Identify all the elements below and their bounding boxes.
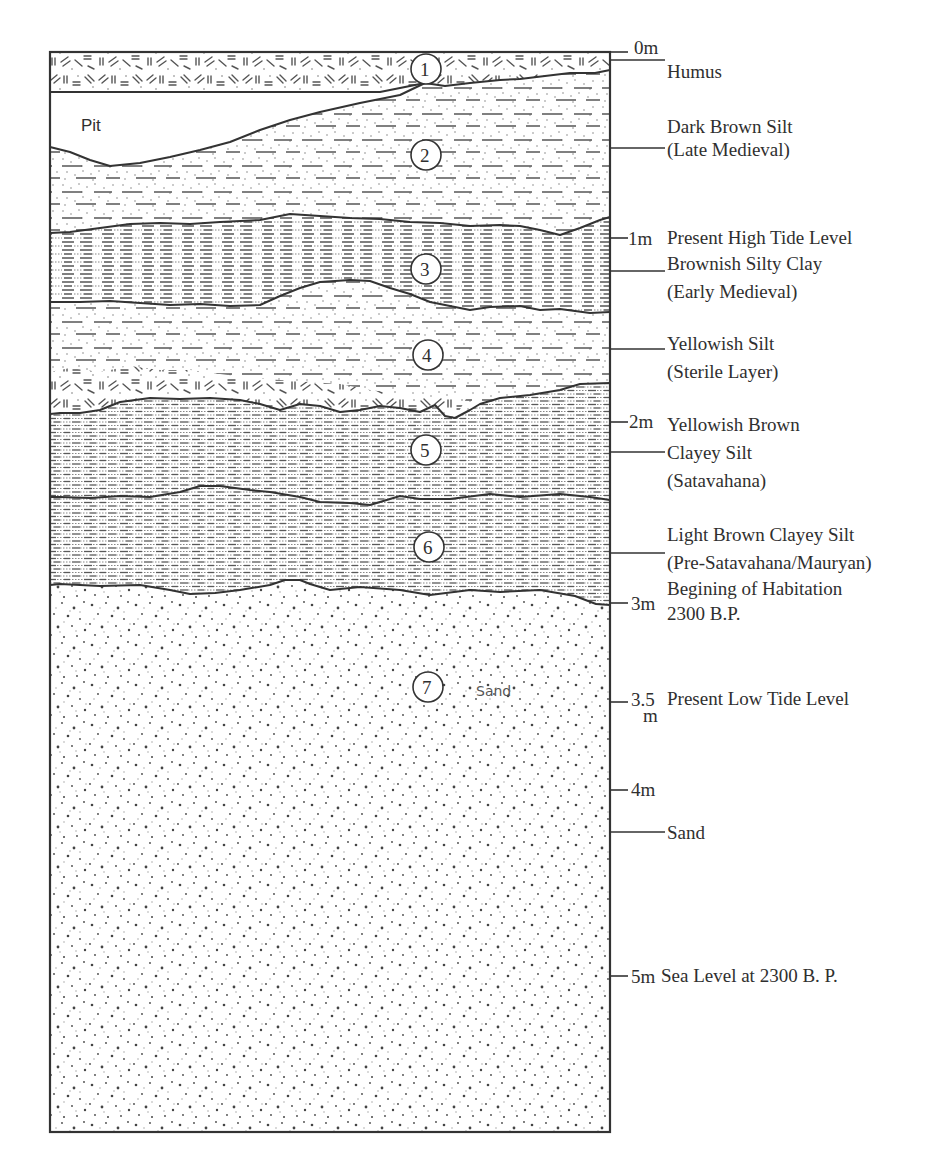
label-sand: Sand <box>667 821 705 844</box>
layer-number-3: 3 <box>420 258 430 281</box>
sand-inline-label: Sand <box>476 680 511 703</box>
tick-label-4m: 4m <box>631 780 655 800</box>
label-layer-5-period: (Satavahana) <box>667 469 766 492</box>
label-humus: Humus <box>667 60 722 83</box>
label-layer-2-name: Dark Brown Silt <box>667 115 793 138</box>
label-layer-6-period: (Pre-Satavahana/Mauryan) <box>667 551 872 574</box>
label-layer-4-name: Yellowish Silt <box>667 332 774 355</box>
label-sea-level: Sea Level at 2300 B. P. <box>661 964 838 987</box>
layer-number-4: 4 <box>422 344 432 367</box>
layer-number-6: 6 <box>423 536 433 559</box>
label-high-tide: Present High Tide Level <box>667 226 852 249</box>
label-layer-3-name: Brownish Silty Clay <box>667 252 822 275</box>
tick-label-1m: 1m <box>628 229 652 249</box>
tick-label-5m: 5m <box>631 967 655 987</box>
label-layer-5-name-2: Clayey Silt <box>667 441 752 464</box>
label-layer-6-name: Light Brown Clayey Silt <box>667 523 854 546</box>
label-habitation-2: 2300 B.P. <box>667 602 740 625</box>
stratigraphic-section-diagram: 1 2 3 4 5 6 7 Pit Sand 0m 1m 2m 3m 3.5 m… <box>0 0 946 1170</box>
layer-number-7: 7 <box>422 676 432 699</box>
label-layer-4-period: (Sterile Layer) <box>667 360 778 383</box>
pit-label: Pit <box>81 114 101 137</box>
label-layer-5-name-1: Yellowish Brown <box>667 413 800 436</box>
layer-number-2: 2 <box>420 144 430 167</box>
layer-number-5: 5 <box>420 439 430 462</box>
label-habitation-1: Begining of Habitation <box>667 577 842 600</box>
tick-label-0m: 0m <box>634 38 658 58</box>
tick-label-2m: 2m <box>629 412 653 432</box>
tick-label-3m: 3m <box>631 594 655 614</box>
layer-number-1: 1 <box>420 58 430 81</box>
tick-label-3-5-unit: m <box>643 706 658 726</box>
label-low-tide: Present Low Tide Level <box>667 687 849 710</box>
label-layer-3-period: (Early Medieval) <box>667 280 797 303</box>
label-layer-2-period: (Late Medieval) <box>667 138 790 161</box>
